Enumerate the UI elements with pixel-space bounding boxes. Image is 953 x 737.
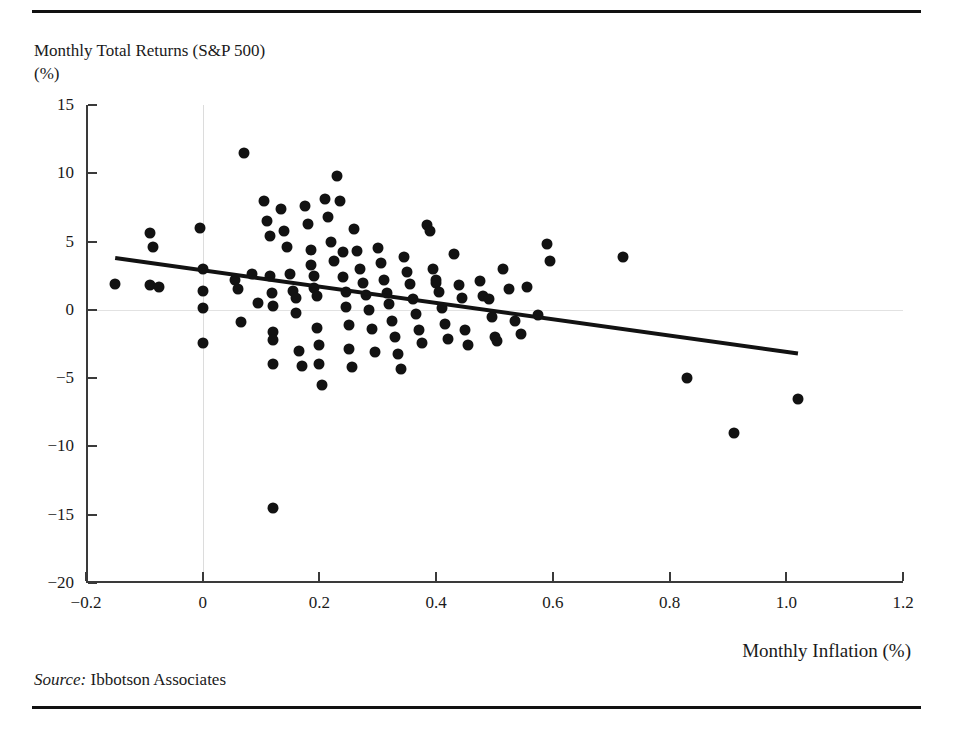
scatter-point [521,281,532,292]
scatter-point [682,373,693,384]
scatter-point [267,334,278,345]
bottom-divider-rule [32,706,921,709]
scatter-point [413,325,424,336]
y-tick-mark [88,582,97,584]
y-tick-label: −15 [47,505,74,525]
x-tick-label: 1.0 [776,593,797,613]
scatter-point [314,340,325,351]
scatter-point [486,311,497,322]
scatter-point [366,323,377,334]
x-tick-mark [552,572,554,581]
scatter-point [232,284,243,295]
scatter-point [390,332,401,343]
scatter-point [434,287,445,298]
x-tick-mark [202,572,204,581]
scatter-point [266,288,277,299]
scatter-point [463,340,474,351]
scatter-point [498,263,509,274]
scatter-point [197,337,208,348]
scatter-point [296,360,307,371]
x-axis-spine [86,581,903,583]
scatter-point [369,347,380,358]
x-tick-mark [318,572,320,581]
scatter-point [302,218,313,229]
y-tick-mark [88,104,97,106]
scatter-point [410,308,421,319]
x-tick-label: 1.2 [892,593,913,613]
scatter-point [364,304,375,315]
scatter-point [340,287,351,298]
scatter-point [401,266,412,277]
scatter-point [311,322,322,333]
x-tick-mark [435,572,437,581]
scatter-point [384,299,395,310]
scatter-plot-area: 151050−5−10−15−20 −0.200.20.40.60.81.01.… [86,105,903,583]
scatter-point [305,259,316,270]
scatter-point [294,345,305,356]
scatter-point [247,269,258,280]
top-divider-rule [32,10,921,13]
scatter-point [305,244,316,255]
scatter-point [439,318,450,329]
scatter-point [454,280,465,291]
scatter-point [474,276,485,287]
x-tick-label: 0.6 [542,593,563,613]
scatter-point [396,363,407,374]
scatter-point [416,337,427,348]
scatter-point [311,291,322,302]
scatter-point [197,303,208,314]
scatter-point [492,336,503,347]
x-tick-label: 0.4 [426,593,447,613]
y-tick-mark [88,514,97,516]
scatter-point [282,242,293,253]
scatter-point [792,393,803,404]
scatter-point [197,285,208,296]
scatter-point [542,239,553,250]
y-tick-mark [88,445,97,447]
scatter-point [238,147,249,158]
scatter-point [235,317,246,328]
scatter-point [515,329,526,340]
y-tick-label: 10 [57,163,74,183]
scatter-point [329,255,340,266]
y-tick-label: 15 [57,95,74,115]
x-tick-label: 0.2 [309,593,330,613]
scatter-point [323,211,334,222]
scatter-point [194,222,205,233]
y-axis-title-line1: Monthly Total Returns (S&P 500) [34,40,265,63]
scatter-point [267,502,278,513]
scatter-point [264,270,275,281]
y-tick-mark [88,241,97,243]
x-tick-mark [669,572,671,581]
scatter-point [483,293,494,304]
scatter-point [349,224,360,235]
scatter-point [399,251,410,262]
y-tick-mark [88,377,97,379]
scatter-point [267,300,278,311]
scatter-point [361,289,372,300]
y-tick-mark [88,309,97,311]
scatter-point [436,303,447,314]
y-tick-label: 5 [66,232,75,252]
scatter-point [378,274,389,285]
scatter-point [148,242,159,253]
scatter-point [393,348,404,359]
y-tick-label: 0 [66,300,75,320]
scatter-point [337,272,348,283]
scatter-point [460,325,471,336]
y-axis-title: Monthly Total Returns (S&P 500) (%) [34,40,265,86]
scatter-point [308,270,319,281]
scatter-point [153,281,164,292]
scatter-point [279,225,290,236]
source-value: Ibbotson Associates [86,670,226,689]
x-tick-label: −0.2 [71,593,102,613]
scatter-point [355,263,366,274]
scatter-point [340,302,351,313]
source-label: Source: [34,670,86,689]
scatter-point [299,201,310,212]
scatter-point [314,359,325,370]
scatter-point [264,231,275,242]
y-tick-label: −5 [56,368,74,388]
scatter-point [291,292,302,303]
scatter-point [407,293,418,304]
